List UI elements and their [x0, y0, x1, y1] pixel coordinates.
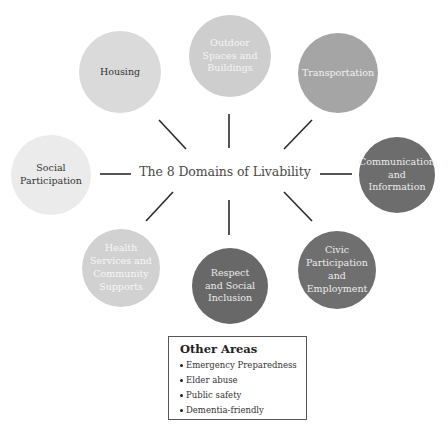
bullet-icon — [180, 409, 183, 412]
domain-health-services: Health Services and Community Supports — [82, 229, 160, 307]
list-item: Dementia-friendly — [180, 403, 298, 418]
bullet-icon — [180, 364, 183, 367]
other-areas-title: Other Areas — [180, 342, 298, 356]
domain-label: Civic Participation and Employment — [306, 244, 368, 295]
domain-housing: Housing — [79, 31, 161, 113]
connector-transportation — [284, 120, 312, 149]
other-areas-list: Emergency Preparedness Elder abuse Publi… — [180, 358, 298, 418]
domain-civic-participation: Civic Participation and Employment — [298, 231, 376, 309]
domain-communication: Communication and Information — [359, 137, 435, 213]
domain-label: Transportation — [302, 67, 374, 80]
domain-social-participation: Social Participation — [11, 135, 91, 215]
list-item-label: Emergency Preparedness — [186, 358, 297, 373]
list-item: Elder abuse — [180, 373, 298, 388]
list-item-label: Dementia-friendly — [186, 403, 264, 418]
domain-label: Communication and Information — [359, 156, 435, 194]
diagram-title: The 8 Domains of Livability — [135, 164, 315, 179]
domain-label: Respect and Social Inclusion — [205, 267, 255, 305]
bullet-icon — [180, 379, 183, 382]
connector-health — [146, 192, 173, 221]
bullet-icon — [180, 394, 183, 397]
domain-respect-inclusion: Respect and Social Inclusion — [192, 248, 268, 324]
domain-label: Social Participation — [20, 162, 82, 188]
connector-civic — [284, 192, 312, 221]
list-item-label: Elder abuse — [186, 373, 238, 388]
list-item: Emergency Preparedness — [180, 358, 298, 373]
domain-label: Housing — [100, 66, 140, 79]
domain-transportation: Transportation — [298, 33, 378, 113]
list-item: Public safety — [180, 388, 298, 403]
domain-label: Outdoor Spaces and Buildings — [203, 37, 258, 75]
livability-diagram: Housing Outdoor Spaces and Buildings Tra… — [0, 0, 448, 437]
connector-housing — [159, 120, 186, 149]
domain-label: Health Services and Community Supports — [90, 242, 152, 293]
list-item-label: Public safety — [186, 388, 241, 403]
other-areas-box: Other Areas Emergency Preparedness Elder… — [168, 336, 307, 420]
domain-outdoor-spaces: Outdoor Spaces and Buildings — [189, 15, 271, 97]
